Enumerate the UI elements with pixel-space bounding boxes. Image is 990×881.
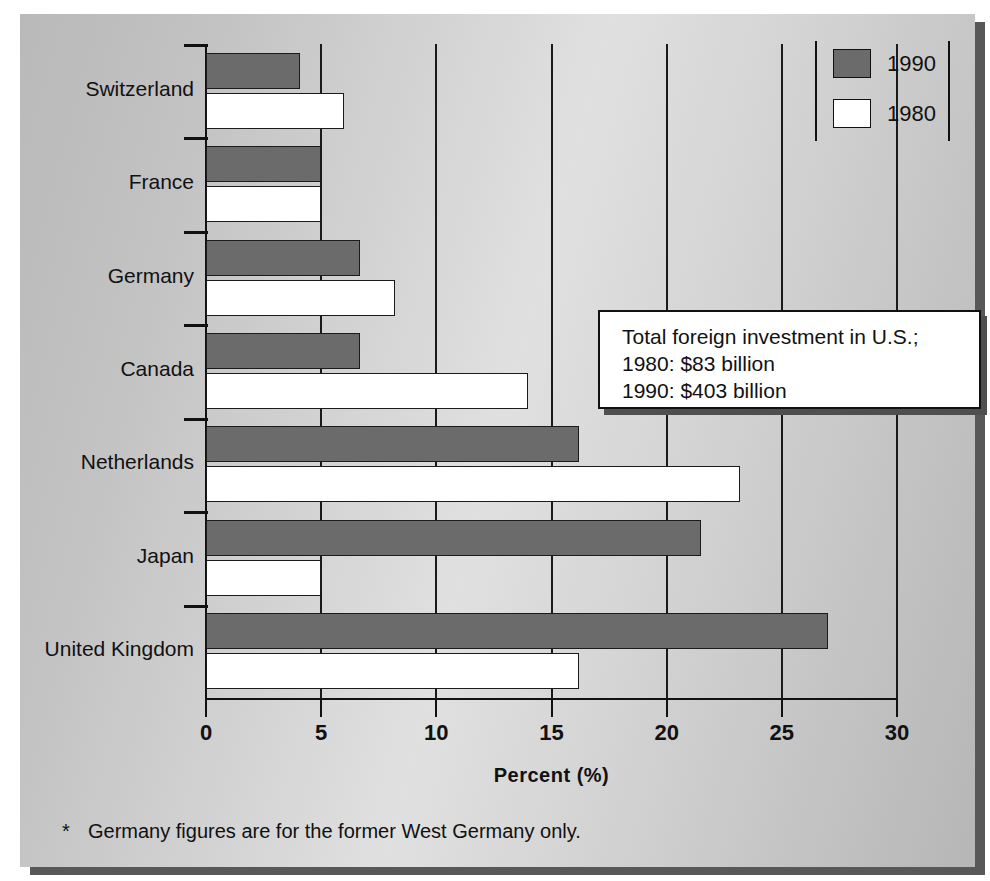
y-axis-label-netherlands: Netherlands (0, 450, 194, 474)
bar-1980-germany (206, 280, 395, 316)
bar-1980-united-kingdom (206, 653, 579, 689)
footnote-marker: * (62, 820, 88, 843)
y-axis-line (205, 44, 207, 699)
bar-1990-germany (206, 240, 360, 276)
y-axis-top-cap (184, 44, 208, 47)
x-tick-label-5: 5 (291, 720, 351, 746)
x-tick-label-0: 0 (176, 720, 236, 746)
legend-label-1990: 1990 (887, 51, 936, 77)
legend-right-rule (948, 41, 950, 141)
y-tick-4 (184, 418, 208, 421)
x-tick-5 (320, 700, 322, 717)
callout-box: Total foreign investment in U.S.; 1980: … (598, 310, 981, 409)
x-tick-label-20: 20 (637, 720, 697, 746)
y-tick-2 (184, 231, 208, 234)
chart-panel: 051015202530 SwitzerlandFranceGermanyCan… (20, 14, 975, 867)
callout-line-1: Total foreign investment in U.S.; (622, 324, 979, 351)
x-tick-15 (551, 700, 553, 717)
x-tick-label-15: 15 (522, 720, 582, 746)
y-axis-label-germany: Germany (0, 264, 194, 288)
callout-line-3: 1990: $403 billion (622, 378, 979, 405)
gridline-5 (320, 44, 322, 699)
legend: 1990 1980 (815, 41, 950, 141)
x-tick-30 (896, 700, 898, 717)
legend-swatch-1980 (833, 99, 871, 128)
x-axis-title: Percent (%) (205, 764, 898, 787)
bar-1990-united-kingdom (206, 613, 828, 649)
y-axis-label-japan: Japan (0, 544, 194, 568)
y-tick-6 (184, 605, 208, 608)
x-tick-label-10: 10 (406, 720, 466, 746)
legend-label-1980: 1980 (887, 101, 936, 127)
y-tick-3 (184, 324, 208, 327)
y-tick-1 (184, 137, 208, 140)
legend-left-rule (815, 41, 817, 141)
x-tick-label-25: 25 (752, 720, 812, 746)
bar-1980-switzerland (206, 93, 344, 129)
y-axis-label-switzerland: Switzerland (0, 77, 194, 101)
legend-swatch-1990 (833, 49, 871, 78)
legend-item-1990: 1990 (833, 49, 936, 78)
bar-1980-france (206, 186, 321, 222)
y-tick-5 (184, 511, 208, 514)
x-tick-0 (205, 700, 207, 717)
bar-1990-france (206, 146, 321, 182)
bar-1990-japan (206, 520, 701, 556)
bar-1990-switzerland (206, 53, 300, 89)
plot-area: 051015202530 SwitzerlandFranceGermanyCan… (20, 14, 975, 867)
gridline-15 (551, 44, 553, 699)
bar-1980-canada (206, 373, 528, 409)
footnote-text: Germany figures are for the former West … (88, 820, 581, 842)
gridline-10 (435, 44, 437, 699)
y-axis-label-united-kingdom: United Kingdom (0, 637, 194, 661)
y-axis-label-france: France (0, 170, 194, 194)
legend-item-1980: 1980 (833, 99, 936, 128)
bar-1990-netherlands (206, 426, 579, 462)
footnote: *Germany figures are for the former West… (62, 820, 581, 843)
callout-line-2: 1980: $83 billion (622, 351, 979, 378)
x-tick-25 (781, 700, 783, 717)
x-tick-20 (666, 700, 668, 717)
chart-root: 051015202530 SwitzerlandFranceGermanyCan… (0, 0, 990, 881)
x-tick-10 (435, 700, 437, 717)
bar-1980-netherlands (206, 466, 740, 502)
y-axis-label-canada: Canada (0, 357, 194, 381)
bar-1990-canada (206, 333, 360, 369)
x-tick-label-30: 30 (867, 720, 927, 746)
bar-1980-japan (206, 560, 321, 596)
